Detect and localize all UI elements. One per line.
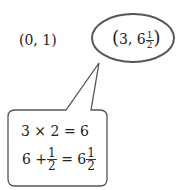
- point-label-origin: (0, 1): [19, 32, 57, 48]
- y-frac-den: 2: [146, 41, 154, 50]
- y-whole: 6: [137, 31, 146, 47]
- eq2-left: 6 +: [22, 151, 47, 167]
- frac1-den: 2: [47, 160, 57, 172]
- y-frac-num: 1: [146, 31, 154, 41]
- callout-line-2: 6 +12 = 612: [22, 147, 96, 172]
- eq2-frac-2: 12: [86, 147, 96, 172]
- y-fraction: 12: [146, 31, 154, 50]
- x-value: 3,: [119, 31, 132, 47]
- paren-close: ): [154, 27, 161, 48]
- point-label-highlighted: (3, 612): [112, 27, 161, 50]
- callout-line-1: 3 × 2 = 6: [21, 123, 89, 139]
- point-a-text: (0, 1): [19, 32, 57, 48]
- eq2-frac-1: 12: [47, 147, 57, 172]
- equation-multiply: 3 × 2 = 6: [21, 123, 89, 139]
- eq2-equals: = 6: [61, 151, 86, 167]
- paren-open: (: [112, 27, 119, 48]
- frac2-den: 2: [86, 160, 96, 172]
